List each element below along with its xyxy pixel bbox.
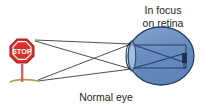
stop-sign-object: STOP [10, 39, 39, 82]
ray-top-upper [35, 40, 131, 44]
retina-image-block [182, 53, 187, 63]
label-in-focus-line1: In focus [145, 4, 182, 16]
eye-focus-diagram: In focus on retina [0, 0, 204, 106]
lens-biconvex [128, 41, 136, 71]
ray-top-lower [35, 41, 131, 69]
sign-pole [21, 64, 23, 82]
diagram-canvas: In focus on retina [0, 0, 204, 106]
stop-sign-text: STOP [12, 47, 32, 56]
external-ray-group [35, 40, 131, 81]
caption-normal-eye: Normal eye [79, 91, 133, 103]
ground-line [10, 80, 38, 82]
